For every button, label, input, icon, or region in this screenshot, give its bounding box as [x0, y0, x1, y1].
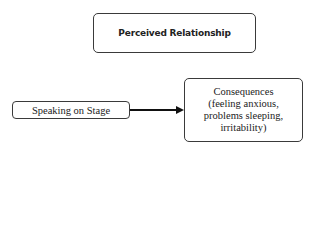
consequences-line-3: problems sleeping,	[204, 110, 283, 122]
consequences-box: Consequences (feeling anxious, problems …	[184, 78, 303, 142]
consequences-line-2: (feeling anxious,	[208, 98, 279, 110]
consequences-line-1: Consequences	[213, 86, 273, 98]
consequences-line-4: irritability)	[220, 122, 266, 134]
arrow-head-icon	[176, 106, 184, 114]
